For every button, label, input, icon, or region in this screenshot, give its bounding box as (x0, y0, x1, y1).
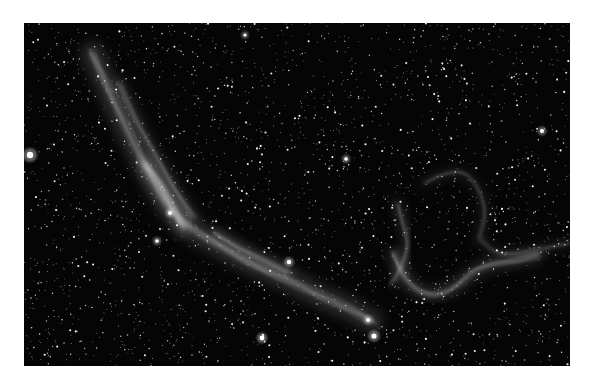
star (174, 31, 175, 32)
star (219, 79, 220, 80)
star (390, 183, 391, 184)
star (183, 87, 184, 88)
star (524, 179, 525, 180)
star (416, 149, 418, 151)
star (138, 325, 139, 326)
star (435, 193, 436, 194)
star (125, 262, 126, 263)
star (418, 348, 419, 349)
star (538, 340, 539, 341)
star (371, 256, 372, 257)
star (268, 356, 270, 358)
star (236, 142, 237, 143)
star (71, 39, 72, 40)
star (331, 277, 332, 278)
star (39, 151, 40, 152)
star (231, 323, 233, 325)
star (268, 344, 270, 346)
star (27, 348, 28, 349)
star (430, 45, 431, 46)
star (461, 215, 462, 216)
star (428, 271, 429, 272)
star (405, 62, 407, 64)
star (94, 140, 95, 141)
star (566, 147, 567, 148)
star (321, 209, 322, 210)
star (280, 247, 281, 248)
star (536, 295, 538, 297)
star (279, 113, 281, 115)
star (68, 49, 69, 50)
star (86, 261, 88, 263)
star (83, 179, 84, 180)
star (508, 335, 510, 337)
star (135, 93, 136, 94)
star (300, 229, 302, 231)
star (394, 224, 395, 225)
star (392, 148, 393, 149)
star (548, 359, 549, 360)
star (126, 27, 127, 28)
star (524, 359, 526, 361)
star (246, 289, 247, 290)
star (130, 97, 131, 98)
star (104, 270, 105, 271)
star (156, 197, 157, 198)
star (174, 75, 175, 76)
star (206, 24, 207, 25)
star (310, 90, 311, 91)
star (160, 158, 162, 160)
star (262, 358, 263, 359)
star (538, 247, 539, 248)
star (220, 174, 221, 175)
star (464, 358, 466, 360)
star (489, 202, 490, 203)
star (31, 209, 33, 211)
star (422, 201, 423, 202)
star (203, 159, 204, 160)
star (56, 246, 57, 247)
star (446, 28, 448, 30)
star (254, 23, 256, 25)
star (102, 83, 103, 84)
star (465, 99, 467, 101)
star (422, 168, 424, 170)
star (313, 154, 314, 155)
star (259, 148, 261, 150)
star (344, 35, 345, 36)
star (41, 227, 43, 229)
star (119, 255, 121, 257)
star (139, 195, 140, 196)
star (195, 53, 196, 54)
star (452, 81, 453, 82)
star (343, 363, 345, 365)
star (484, 362, 485, 363)
star (314, 107, 315, 108)
star (466, 284, 467, 285)
star (376, 142, 377, 143)
star (317, 351, 319, 353)
star (89, 279, 91, 281)
star (115, 191, 116, 192)
star (252, 364, 253, 365)
star (162, 229, 163, 230)
star (346, 124, 347, 125)
star (352, 71, 354, 73)
star (251, 139, 252, 140)
star (24, 171, 25, 173)
star (236, 161, 237, 162)
star (484, 155, 485, 156)
star (504, 303, 506, 305)
star (566, 176, 567, 177)
star (549, 174, 550, 175)
star (107, 64, 109, 66)
star (549, 305, 550, 306)
star (483, 262, 485, 264)
star (285, 277, 286, 278)
star (268, 247, 270, 249)
star (345, 145, 347, 147)
star (464, 70, 465, 71)
star (383, 196, 384, 197)
star (44, 306, 45, 307)
star (283, 70, 284, 71)
